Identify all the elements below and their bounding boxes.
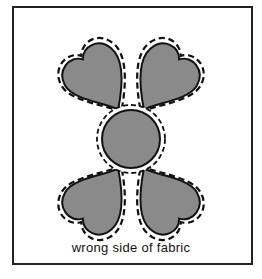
heart-bottom-left: [62, 168, 121, 235]
flower-pattern-diagram: [0, 0, 262, 279]
center-circle: [102, 110, 160, 168]
caption-label: wrong side of fabric: [0, 240, 262, 255]
heart-bottom-right: [141, 168, 200, 235]
heart-top-right: [141, 43, 200, 110]
heart-top-left: [62, 43, 121, 110]
